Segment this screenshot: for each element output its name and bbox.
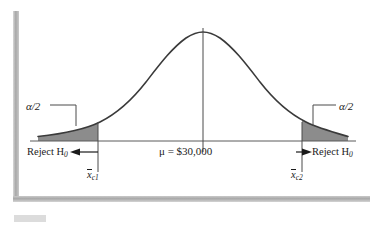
critical-value-label-right: xc2 (291, 170, 303, 181)
reject-h0-text-right: Reject H (312, 146, 349, 157)
reject-arrow-right-head (302, 149, 312, 156)
mean-value-label: μ = $30,000 (159, 146, 212, 157)
alpha-leader-right (313, 105, 336, 126)
reject-h0-label-right: Reject H0 (312, 147, 353, 158)
critical-value-label-left: xc1 (87, 170, 99, 181)
x-bar-symbol-left: x (87, 170, 92, 181)
critical-value-subscript-right: c2 (296, 173, 303, 182)
alpha-leader-left (50, 105, 76, 126)
reject-h0-subscript-right: 0 (349, 150, 353, 159)
distribution-plot (0, 0, 386, 225)
reject-arrow-left-head (70, 149, 80, 156)
alpha-over-two-label-left: α/2 (26, 101, 40, 112)
reject-h0-text-left: Reject H (27, 146, 64, 157)
x-bar-symbol-right: x (291, 170, 296, 181)
critical-value-subscript-left: c1 (92, 173, 99, 182)
reject-h0-subscript-left: 0 (64, 150, 68, 159)
normal-curve (38, 32, 348, 137)
alpha-over-two-label-right: α/2 (339, 101, 353, 112)
reject-h0-label-left: Reject H0 (27, 147, 68, 158)
figure-canvas: α/2 α/2 Reject H0 Reject H0 μ = $30,000 … (0, 0, 386, 225)
